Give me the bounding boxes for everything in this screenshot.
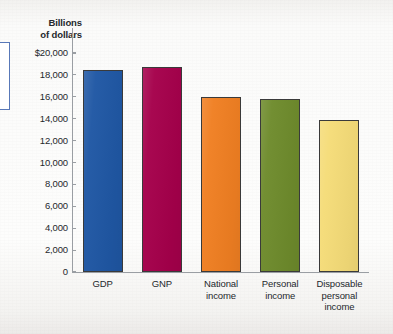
category-label-line2: income (251, 290, 310, 302)
y-tick-label: 18,000 (10, 69, 68, 80)
category-label-line1: GDP (73, 278, 132, 290)
bar[interactable] (201, 97, 241, 272)
category-label-line1: Disposable (310, 278, 369, 290)
category-label: Disposablepersonalincome (310, 278, 369, 313)
category-label-line2: income (191, 290, 250, 302)
y-tick-mark (72, 228, 76, 229)
y-tick-mark (72, 271, 76, 272)
y-tick-label: 14,000 (10, 113, 68, 124)
bar[interactable] (83, 70, 123, 272)
y-tick-mark (72, 140, 76, 141)
y-tick-label: 12,000 (10, 135, 68, 146)
bar-shading (202, 98, 240, 271)
bar-shading (320, 121, 358, 271)
category-label-line1: GNP (132, 278, 191, 290)
y-tick-label: 0 (10, 266, 68, 277)
bar[interactable] (260, 99, 300, 272)
y-tick-label: 2,000 (10, 244, 68, 255)
category-label: GNP (132, 278, 191, 290)
category-label: Personalincome (251, 278, 310, 301)
y-tick-mark (72, 74, 76, 75)
y-tick-label: 4,000 (10, 222, 68, 233)
y-tick-label: 16,000 (10, 91, 68, 102)
category-label-line2: personal (310, 290, 369, 302)
category-label-line3: income (310, 301, 369, 313)
category-label: Nationalincome (191, 278, 250, 301)
y-tick-label: 6,000 (10, 200, 68, 211)
y-tick-label: 10,000 (10, 157, 68, 168)
bar[interactable] (142, 67, 182, 272)
bar[interactable] (319, 120, 359, 272)
y-axis-title-line1: Billions (22, 17, 82, 29)
bar-shading (84, 71, 122, 271)
y-tick-label: $20,000 (10, 47, 68, 58)
y-tick-mark (72, 162, 76, 163)
y-tick-mark (72, 96, 76, 97)
bar-shading (261, 100, 299, 271)
chart-page: Billions of dollars 02,0004,0006,0008,00… (0, 0, 393, 334)
category-label-line1: Personal (251, 278, 310, 290)
y-axis-line (72, 28, 73, 273)
y-tick-label: 8,000 (10, 178, 68, 189)
bar-shading (143, 68, 181, 271)
y-tick-mark (72, 52, 76, 53)
y-tick-mark (72, 206, 76, 207)
x-axis-line (72, 272, 369, 273)
y-tick-mark (72, 184, 76, 185)
y-tick-mark (72, 118, 76, 119)
category-label-line1: National (191, 278, 250, 290)
y-tick-mark (72, 250, 76, 251)
bar-chart: Billions of dollars 02,0004,0006,0008,00… (0, 0, 393, 334)
category-label: GDP (73, 278, 132, 290)
